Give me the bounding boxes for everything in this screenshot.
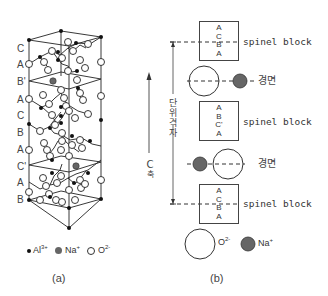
spinel-block-label: spinel block bbox=[243, 199, 312, 209]
na-ion-legend-icon bbox=[241, 237, 255, 251]
unit-cell-char: 격 bbox=[168, 118, 178, 128]
block-layer: A bbox=[216, 50, 221, 59]
spinel-block-label: spinel block bbox=[243, 117, 312, 127]
legend-o-charge: 2- bbox=[225, 236, 230, 242]
o-ion-legend-icon bbox=[185, 229, 215, 259]
na-ion-circle bbox=[193, 157, 207, 171]
legend-b-o: O2- bbox=[218, 236, 230, 247]
block-layer: A bbox=[216, 130, 221, 139]
legend-o-label: O bbox=[218, 237, 225, 247]
unit-cell-char: 자 bbox=[168, 128, 178, 138]
unit-cell-label: 단 위 격 자 bbox=[168, 98, 178, 138]
unit-cell-char: 위 bbox=[168, 108, 178, 118]
panel-b: C 축 단 위 격 자 A C B A spinel block 경면 A B … bbox=[0, 0, 328, 296]
c-axis-label: C 축 bbox=[145, 160, 155, 180]
mirror-plane-label: 경면 bbox=[258, 159, 276, 169]
c-axis-letter: C bbox=[145, 160, 155, 170]
spinel-block-bottom: A C B A bbox=[199, 184, 239, 224]
unit-cell-char: 단 bbox=[168, 98, 178, 108]
mirror-plane-label: 경면 bbox=[258, 76, 276, 86]
caption-b: (b) bbox=[210, 272, 223, 284]
spinel-block-top: A C B A bbox=[199, 21, 239, 61]
legend-na-charge: + bbox=[270, 237, 274, 243]
c-axis-suffix: 축 bbox=[145, 170, 155, 180]
spinel-block-middle: A B C' A bbox=[199, 101, 239, 141]
block-layer: A bbox=[216, 213, 221, 222]
legend-b-na: Na+ bbox=[258, 237, 273, 248]
na-ion-circle bbox=[233, 74, 247, 88]
legend-na-label: Na bbox=[258, 238, 270, 248]
spinel-block-label: spinel block bbox=[243, 37, 312, 47]
